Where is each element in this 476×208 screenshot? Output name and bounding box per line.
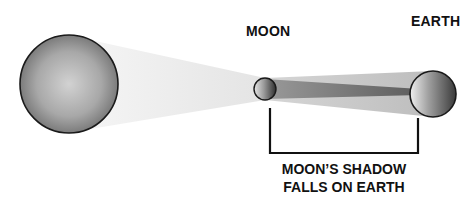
moon-label: MOON <box>246 23 290 39</box>
earth-body <box>410 71 456 117</box>
shadow-caption: MOON’S SHADOW FALLS ON EARTH <box>264 160 424 196</box>
shadow-bracket <box>270 108 418 153</box>
earth-label: EARTH <box>411 13 460 29</box>
eclipse-diagram: MOON EARTH MOON’S SHADOW FALLS ON EARTH <box>0 0 476 208</box>
caption-line-2: FALLS ON EARTH <box>264 178 424 196</box>
caption-line-1: MOON’S SHADOW <box>264 160 424 178</box>
moon-body <box>254 78 276 100</box>
sun-body <box>20 35 118 133</box>
